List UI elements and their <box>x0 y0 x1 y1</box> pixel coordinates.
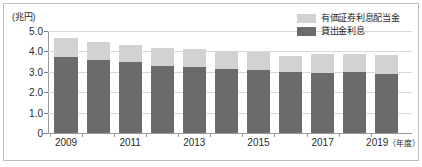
bar-segment-securities <box>183 49 206 66</box>
bar-segment-loans <box>119 62 142 133</box>
bar-2011 <box>119 45 142 133</box>
y-tick-mark <box>44 133 48 134</box>
bar-segment-loans <box>54 57 77 134</box>
x-tick-mark <box>274 134 275 137</box>
y-tick-label: 0 <box>37 128 43 139</box>
x-tick-label-2009: 2009 <box>55 137 77 148</box>
y-tick-label: 4.0 <box>29 46 43 57</box>
bar-segment-loans <box>151 66 174 133</box>
y-tick-mark <box>44 92 48 93</box>
legend-item-securities: 有価証券利息配当金 <box>297 13 399 23</box>
x-tick-label-2019: 2019（年度） <box>366 137 420 148</box>
x-axis-unit-label: （年度） <box>388 139 420 148</box>
bar-2018 <box>343 54 366 133</box>
x-tick-label-2017: 2017 <box>311 137 333 148</box>
x-axis-line <box>43 133 412 134</box>
plot-area <box>48 31 412 133</box>
bar-segment-loans <box>87 60 110 133</box>
legend-label-securities: 有価証券利息配当金 <box>321 13 399 23</box>
y-tick-mark <box>44 113 48 114</box>
bar-segment-securities <box>375 55 398 73</box>
bar-2014 <box>215 51 238 133</box>
bar-2009 <box>54 38 77 133</box>
x-tick-mark <box>307 134 308 137</box>
bar-2017 <box>311 54 334 133</box>
x-tick-mark <box>50 134 51 137</box>
bar-segment-loans <box>215 69 238 133</box>
x-tick-mark <box>339 134 340 137</box>
bar-segment-securities <box>119 45 142 61</box>
bar-segment-loans <box>375 74 398 133</box>
y-tick-mark <box>44 72 48 73</box>
y-tick-label: 2.0 <box>29 87 43 98</box>
bar-segment-securities <box>215 51 238 68</box>
x-tick-mark <box>178 134 179 137</box>
bar-segment-loans <box>279 72 302 133</box>
bar-segment-loans <box>311 73 334 133</box>
y-tick-label: 3.0 <box>29 66 43 77</box>
legend-swatch-securities <box>297 14 316 23</box>
bar-2010 <box>87 42 110 133</box>
bar-2016 <box>279 56 302 134</box>
bar-segment-securities <box>279 56 302 72</box>
y-tick-label: 1.0 <box>29 107 43 118</box>
bar-segment-securities <box>87 42 110 59</box>
bar-segment-securities <box>247 52 270 69</box>
y-tick-mark <box>44 51 48 52</box>
bar-segment-securities <box>343 54 366 71</box>
x-tick-label-2013: 2013 <box>183 137 205 148</box>
bar-2015 <box>247 52 270 133</box>
bar-2012 <box>151 48 174 133</box>
bar-segment-securities <box>54 38 77 56</box>
x-tick-mark <box>114 134 115 137</box>
y-tick-mark <box>44 31 48 32</box>
y-axis-unit-label: (兆円) <box>12 10 35 23</box>
x-tick-mark <box>146 134 147 137</box>
bar-2013 <box>183 49 206 133</box>
legend-item-loans: 貸出金利息 <box>297 26 399 36</box>
legend-swatch-loans <box>297 27 316 36</box>
bar-segment-loans <box>247 70 270 133</box>
bar-2019 <box>375 55 398 133</box>
bar-segment-securities <box>151 48 174 65</box>
x-tick-label-2011: 2011 <box>119 137 141 148</box>
x-tick-mark <box>82 134 83 137</box>
x-tick-mark <box>242 134 243 137</box>
chart-figure: (兆円) 01.02.03.04.05.0 200920112013201520… <box>0 0 422 167</box>
bar-segment-loans <box>343 72 366 133</box>
bar-segment-loans <box>183 67 206 133</box>
bar-segment-securities <box>311 54 334 72</box>
x-tick-label-2015: 2015 <box>247 137 269 148</box>
legend-label-loans: 貸出金利息 <box>321 26 365 36</box>
y-tick-label: 5.0 <box>29 26 43 37</box>
x-tick-mark <box>210 134 211 137</box>
chart-legend: 有価証券利息配当金 貸出金利息 <box>297 13 399 39</box>
